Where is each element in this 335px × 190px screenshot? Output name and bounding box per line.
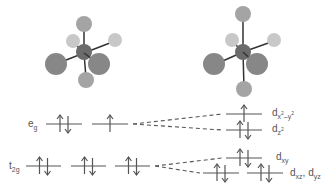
eg-label: eg <box>28 118 38 132</box>
correlation-line <box>133 124 222 130</box>
ligand-atom-back-right <box>267 33 281 47</box>
ligand-atom-front-left <box>45 53 67 75</box>
t2g-label: t2g <box>9 160 20 174</box>
ligand-atom-front-right <box>246 53 268 75</box>
elongated-molecule <box>203 6 281 97</box>
ligand-atom-bottom <box>236 81 252 97</box>
ligand-atom-bottom <box>78 72 94 88</box>
correlation-line <box>133 114 222 124</box>
correlation-line <box>155 166 200 173</box>
dxy-label: dxy <box>276 151 289 165</box>
ligand-atom-back-left <box>225 33 239 47</box>
crystal-field-diagram: eg t2g dx2–y2 dz2 dxy dxz, dyz <box>0 0 335 190</box>
energy-levels <box>26 105 283 182</box>
octahedral-molecule <box>45 16 122 88</box>
dx2-y2-label: dx2–y2 <box>272 107 294 121</box>
ligand-atom-front-left <box>203 53 225 75</box>
ligand-atom-back-right <box>108 33 122 47</box>
ligand-atom-top <box>76 16 92 32</box>
dz2-label: dz2 <box>272 123 284 136</box>
ligand-atom-back-left <box>66 34 80 48</box>
ligand-atom-front-right <box>88 53 110 75</box>
dxz-dyz-label: dxz, dyz <box>290 167 321 181</box>
correlation-line <box>155 158 222 166</box>
ligand-atom-top <box>235 6 251 22</box>
